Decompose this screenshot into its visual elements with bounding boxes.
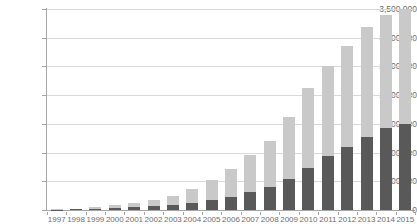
bar-2013 <box>361 27 373 210</box>
bar-segment-lower <box>283 179 295 210</box>
x-axis-tick-label: 2008 <box>259 215 280 224</box>
bar-segment-lower <box>148 206 160 210</box>
bar-2002 <box>148 200 160 210</box>
bar-2006 <box>225 169 237 210</box>
x-axis-tick-label: 2005 <box>201 215 222 224</box>
bar-segment-lower <box>264 187 276 210</box>
bar-segment-upper <box>186 189 198 202</box>
bar-segment-lower <box>206 200 218 210</box>
bar-segment-lower <box>399 124 411 210</box>
x-axis-tick-label: 2004 <box>182 215 203 224</box>
x-axis-tick-label: 2000 <box>104 215 125 224</box>
x-axis: 1997199819992000200120022003200420052006… <box>47 212 415 224</box>
bar-2009 <box>283 117 295 210</box>
x-axis-tick-label: 2014 <box>375 215 396 224</box>
x-axis-tick-label: 1997 <box>46 215 67 224</box>
y-axis-tick-mark <box>42 66 46 67</box>
bar-segment-lower <box>341 147 353 210</box>
x-axis-tick-label: 2002 <box>143 215 164 224</box>
x-axis-tick-label: 1999 <box>85 215 106 224</box>
y-axis-tick-mark <box>42 153 46 154</box>
x-axis-tick-mark <box>415 212 416 215</box>
bar-segment-upper <box>322 66 334 156</box>
y-axis-tick-mark <box>42 95 46 96</box>
bar-2012 <box>341 46 353 210</box>
x-axis-tick-label: 2009 <box>278 215 299 224</box>
bar-segment-upper <box>206 180 218 200</box>
x-axis-tick-label: 2007 <box>240 215 261 224</box>
bar-segment-upper <box>225 169 237 197</box>
x-axis-tick-label: 2003 <box>162 215 183 224</box>
bar-2000 <box>109 205 121 210</box>
bar-segment-lower <box>380 128 392 210</box>
bar-2010 <box>302 88 314 210</box>
bar-segment-lower <box>167 205 179 210</box>
y-axis-tick-mark <box>42 181 46 182</box>
bar-chart: 3,500,0003,000,0002,500,0002,000,0001,50… <box>0 0 417 224</box>
bar-2008 <box>264 141 276 210</box>
y-axis-tick-mark <box>42 9 46 10</box>
x-axis-tick-label: 2006 <box>220 215 241 224</box>
bar-2001 <box>128 203 140 210</box>
y-axis-tick-mark <box>42 124 46 125</box>
x-axis-tick-label: 2013 <box>356 215 377 224</box>
bar-2003 <box>167 196 179 210</box>
x-axis-tick-label: 2001 <box>123 215 144 224</box>
bar-1998 <box>70 209 82 210</box>
bar-1997 <box>51 209 63 210</box>
bar-2015 <box>399 9 411 210</box>
bar-2004 <box>186 189 198 210</box>
plot-area <box>47 9 415 210</box>
bar-segment-lower <box>322 156 334 210</box>
bar-segment-lower <box>89 209 101 210</box>
bar-2011 <box>322 66 334 210</box>
bar-segment-lower <box>70 209 82 210</box>
bar-segment-lower <box>361 137 373 210</box>
bar-segment-lower <box>302 168 314 210</box>
gridline <box>47 9 415 10</box>
bar-segment-upper <box>380 15 392 128</box>
x-axis-tick-label: 2012 <box>337 215 358 224</box>
bar-segment-lower <box>128 207 140 210</box>
bar-segment-upper <box>341 46 353 147</box>
bar-2005 <box>206 180 218 210</box>
bar-2007 <box>244 155 256 210</box>
x-axis-line <box>46 210 415 211</box>
bar-1999 <box>89 207 101 210</box>
chart-title <box>0 0 417 2</box>
y-axis-tick-mark <box>42 38 46 39</box>
x-axis-tick-label: 2010 <box>298 215 319 224</box>
x-axis-tick-label: 2011 <box>317 215 338 224</box>
bar-segment-upper <box>283 117 295 179</box>
bar-segment-upper <box>361 27 373 137</box>
y-axis-tick-mark <box>42 210 46 211</box>
bar-2014 <box>380 15 392 210</box>
bar-segment-upper <box>244 155 256 192</box>
bar-segment-upper <box>167 196 179 205</box>
bar-segment-lower <box>109 208 121 210</box>
bar-segment-upper <box>264 141 276 187</box>
bar-segment-upper <box>399 9 411 124</box>
bar-segment-upper <box>302 88 314 168</box>
x-axis-tick-label: 1998 <box>65 215 86 224</box>
bar-segment-lower <box>225 197 237 210</box>
x-axis-tick-label: 2015 <box>395 215 416 224</box>
bar-segment-lower <box>186 203 198 210</box>
bar-segment-lower <box>244 192 256 210</box>
